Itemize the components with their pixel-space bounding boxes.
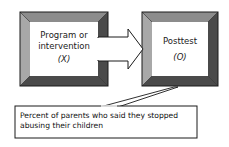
program-symbol: (X) [30,54,98,65]
program-label-line1: Program or [30,30,98,41]
callout-line2: abusing their children [20,121,195,131]
callout-text: Percent of parents who said they stopped… [20,111,195,131]
posttest-label: Posttest (O) [152,36,208,63]
program-label: Program or intervention (X) [30,30,98,65]
posttest-label-line1: Posttest [152,36,208,47]
callout-pointer [100,87,178,107]
posttest-symbol: (O) [152,52,208,63]
callout-line1: Percent of parents who said they stopped [20,111,195,121]
program-label-line2: intervention [30,41,98,52]
